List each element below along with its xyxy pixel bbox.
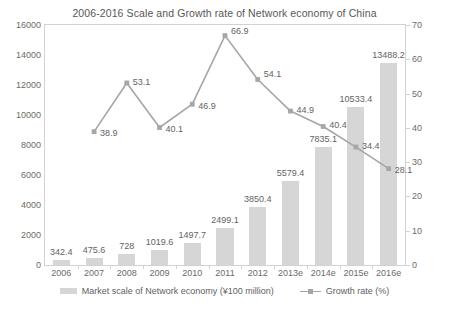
- line-value-label: 44.9: [296, 106, 314, 115]
- bar-value-label: 10533.4: [336, 95, 377, 104]
- y-axis-tick-label: 8000: [1, 141, 41, 150]
- x-axis-tick-mark: [143, 265, 144, 269]
- bar[interactable]: [380, 63, 397, 265]
- y2-axis-tick-mark: [406, 231, 410, 232]
- x-axis-tick-mark: [110, 265, 111, 269]
- y-axis-tick-label: 14000: [1, 51, 41, 60]
- x-axis-tick-mark: [241, 265, 242, 269]
- chart-title: 2006-2016 Scale and Growth rate of Netwo…: [0, 7, 449, 19]
- line-value-label: 66.9: [231, 27, 249, 36]
- line-value-label: 46.9: [198, 102, 216, 111]
- x-axis-tick-label: 2013e: [274, 269, 307, 278]
- bar[interactable]: [315, 147, 332, 265]
- bar[interactable]: [53, 260, 70, 265]
- y-axis-tick-label: 4000: [1, 201, 41, 210]
- y2-axis-tick-label: 70: [412, 21, 446, 30]
- bar[interactable]: [347, 107, 364, 265]
- line-value-label: 53.1: [133, 78, 151, 87]
- line-swatch-icon: [300, 288, 321, 295]
- bar-value-label: 13488.2: [368, 51, 409, 60]
- x-axis-tick-mark: [340, 265, 341, 269]
- y2-axis-tick-mark: [406, 25, 410, 26]
- bar[interactable]: [151, 250, 168, 265]
- y2-axis-tick-label: 0: [412, 261, 446, 270]
- bar-value-label: 3850.4: [237, 195, 278, 204]
- y2-axis-tick-label: 20: [412, 192, 446, 201]
- x-axis-tick-label: 2014e: [307, 269, 340, 278]
- x-axis-tick-mark: [372, 265, 373, 269]
- legend-label-growth-rate: Growth rate (%): [326, 286, 390, 296]
- y-axis-tick-label: 10000: [1, 111, 41, 120]
- line-value-label: 54.1: [264, 70, 282, 79]
- y-axis-tick-label: 0: [1, 261, 41, 270]
- x-axis-tick-label: 2009: [143, 269, 176, 278]
- bar[interactable]: [184, 243, 201, 265]
- bar-swatch-icon: [60, 288, 77, 294]
- y2-axis-tick-label: 50: [412, 89, 446, 98]
- x-axis-tick-mark: [274, 265, 275, 269]
- y2-axis-tick-mark: [406, 196, 410, 197]
- y2-axis-tick-mark: [406, 128, 410, 129]
- y2-axis-tick-label: 40: [412, 123, 446, 132]
- line-value-label: 34.4: [362, 142, 380, 151]
- y-axis-tick-label: 6000: [1, 171, 41, 180]
- chart-container: 2006-2016 Scale and Growth rate of Netwo…: [0, 0, 449, 312]
- legend-item-growth-rate[interactable]: Growth rate (%): [300, 286, 390, 296]
- x-axis-tick-mark: [176, 265, 177, 269]
- y2-axis-tick-mark: [406, 94, 410, 95]
- y2-axis-tick-label: 30: [412, 158, 446, 167]
- x-axis-tick-mark: [209, 265, 210, 269]
- x-axis-tick-label: 2008: [110, 269, 143, 278]
- bar[interactable]: [216, 228, 233, 265]
- legend-label-market-scale: Market scale of Network economy (¥100 mi…: [82, 286, 274, 296]
- bar-value-label: 2499.1: [205, 216, 246, 225]
- x-axis-tick-label: 2011: [209, 269, 242, 278]
- bar[interactable]: [118, 254, 135, 265]
- x-axis-tick-label: 2016e: [372, 269, 405, 278]
- legend-item-market-scale[interactable]: Market scale of Network economy (¥100 mi…: [60, 286, 274, 296]
- x-axis-tick-label: 2012: [241, 269, 274, 278]
- bar[interactable]: [282, 181, 299, 265]
- x-axis-tick-label: 2007: [78, 269, 111, 278]
- bar[interactable]: [86, 258, 103, 265]
- bar[interactable]: [249, 207, 266, 265]
- bar-value-label: 7835.1: [303, 135, 344, 144]
- y-axis-tick-label: 12000: [1, 81, 41, 90]
- bar-value-label: 1497.7: [172, 231, 213, 240]
- chart-legend: Market scale of Network economy (¥100 mi…: [0, 286, 449, 296]
- bar-value-label: 5579.4: [270, 169, 311, 178]
- x-axis-tick-label: 2010: [176, 269, 209, 278]
- x-axis-tick-mark: [307, 265, 308, 269]
- x-axis-tick-mark: [78, 265, 79, 269]
- y2-axis-tick-label: 10: [412, 226, 446, 235]
- line-value-label: 28.1: [395, 166, 413, 175]
- line-value-label: 38.9: [100, 129, 118, 138]
- x-axis-tick-label: 2006: [45, 269, 78, 278]
- line-value-label: 40.1: [166, 125, 184, 134]
- y2-axis-tick-label: 60: [412, 55, 446, 64]
- y-axis-tick-label: 2000: [1, 231, 41, 240]
- y2-axis-tick-mark: [406, 265, 410, 266]
- line-value-label: 40.4: [329, 121, 347, 130]
- x-axis-tick-label: 2015e: [340, 269, 373, 278]
- y-axis-tick-label: 16000: [1, 21, 41, 30]
- y2-axis-tick-mark: [406, 162, 410, 163]
